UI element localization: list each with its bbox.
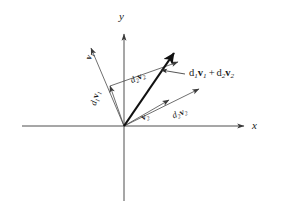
diagram-canvas — [0, 0, 281, 220]
vector-d1v1 — [110, 86, 124, 126]
vector-addition-figure: y x v1 d1v1 v2 d2v2 d2v2 d1v1+d2v2 — [0, 0, 281, 220]
resultant-coef2: d — [217, 67, 222, 78]
resultant-vec1-sub: 1 — [203, 72, 207, 80]
vector-v1 — [91, 48, 124, 126]
resultant-operator: + — [207, 67, 217, 78]
resultant-vec2-sub: 2 — [231, 72, 235, 80]
y-axis-label: y — [119, 11, 124, 22]
resultant-leader-line — [161, 70, 185, 74]
vector-d2v2-lower — [124, 89, 199, 126]
resultant-coef1-sub: 1 — [194, 72, 198, 80]
resultant-vec2: v — [225, 67, 230, 78]
resultant-coef2-sub: 2 — [222, 72, 226, 80]
label-resultant: d1v1+d2v2 — [189, 68, 234, 79]
x-axis-label: x — [252, 120, 257, 131]
